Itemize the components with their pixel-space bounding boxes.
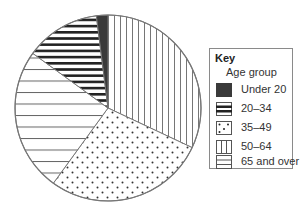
legend-title: Key	[215, 52, 235, 64]
legend-item-50-64: 50–64	[216, 140, 294, 154]
solid-swatch-icon	[216, 83, 232, 97]
pie-chart	[0, 0, 205, 216]
legend: Key Age group Under 20 20–34 35–49 50–64	[209, 48, 293, 169]
thick-horizontal-lines-swatch-icon	[216, 102, 232, 116]
legend-label: Under 20	[241, 83, 286, 95]
legend-label: 35–49	[241, 121, 272, 133]
legend-label: 65 and over	[241, 155, 299, 167]
legend-item-20-34: 20–34	[216, 102, 294, 116]
legend-item-35-49: 35–49	[216, 121, 294, 135]
dots-swatch-icon	[216, 121, 232, 135]
thin-horizontal-lines-swatch-icon	[216, 155, 232, 169]
legend-label: 50–64	[241, 140, 272, 152]
legend-label: 20–34	[241, 102, 272, 114]
legend-subtitle: Age group	[226, 66, 277, 78]
vertical-lines-swatch-icon	[216, 140, 232, 154]
legend-item-under-20: Under 20	[216, 83, 294, 97]
legend-item-65-and-over: 65 and over	[216, 159, 294, 169]
